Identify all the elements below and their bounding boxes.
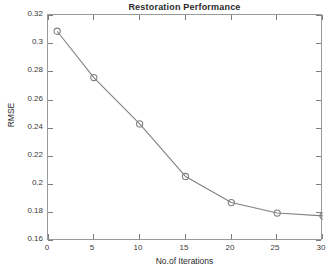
x-tick-mark-top (93, 15, 94, 20)
x-tick-label: 15 (169, 243, 199, 252)
y-tick-mark-right (316, 128, 321, 129)
y-tick-label: 0.16 (4, 235, 43, 243)
x-tick-label: 5 (77, 243, 107, 252)
data-point-marker (54, 28, 60, 34)
x-tick-label: 20 (215, 243, 245, 252)
x-tick-mark-top (322, 15, 323, 20)
x-tick-mark-top (139, 15, 140, 20)
y-tick-mark (48, 100, 53, 101)
x-tick-mark (322, 234, 323, 239)
x-tick-mark-top (231, 15, 232, 20)
y-tick-mark-right (316, 100, 321, 101)
x-tick-mark (93, 234, 94, 239)
x-tick-mark (185, 234, 186, 239)
y-tick-mark-right (316, 240, 321, 241)
y-tick-mark-right (316, 212, 321, 213)
y-tick-label: 0.32 (4, 10, 43, 18)
y-tick-label: 0.3 (4, 38, 43, 46)
y-tick-mark-right (316, 71, 321, 72)
x-tick-mark (231, 234, 232, 239)
y-tick-mark (48, 212, 53, 213)
y-axis-label: RMSE (6, 85, 16, 145)
plot-area (47, 14, 322, 240)
y-tick-mark (48, 128, 53, 129)
y-tick-mark-right (316, 43, 321, 44)
data-series-line (57, 31, 323, 216)
x-tick-mark (276, 234, 277, 239)
x-tick-mark (139, 234, 140, 239)
x-tick-label: 30 (306, 243, 335, 252)
x-tick-label: 0 (32, 243, 62, 252)
y-tick-label: 0.2 (4, 179, 43, 187)
x-tick-mark (48, 234, 49, 239)
chart-title: Restoration Performance (47, 1, 322, 13)
y-tick-label: 0.28 (4, 66, 43, 74)
y-tick-mark-right (316, 156, 321, 157)
y-tick-label: 0.22 (4, 151, 43, 159)
y-tick-mark (48, 71, 53, 72)
plot-canvas (48, 15, 323, 241)
y-tick-mark-right (316, 184, 321, 185)
x-tick-label: 25 (260, 243, 290, 252)
x-tick-mark-top (48, 15, 49, 20)
x-tick-mark-top (276, 15, 277, 20)
y-tick-mark (48, 43, 53, 44)
y-tick-mark-right (316, 15, 321, 16)
x-axis-label: No.of Iterations (47, 256, 322, 266)
x-tick-mark-top (185, 15, 186, 20)
data-series-markers (54, 28, 323, 219)
chart-figure: Restoration Performance (0, 0, 335, 274)
x-tick-label: 10 (123, 243, 153, 252)
y-tick-mark (48, 240, 53, 241)
y-tick-mark (48, 156, 53, 157)
y-tick-mark (48, 184, 53, 185)
y-tick-label: 0.18 (4, 207, 43, 215)
